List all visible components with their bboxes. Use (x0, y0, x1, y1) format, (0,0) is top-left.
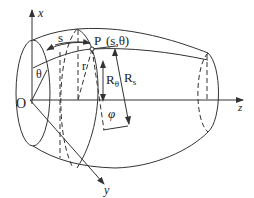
constructions (32, 30, 128, 158)
r-theta-arrow-up (100, 60, 106, 68)
shell-body (16, 28, 219, 168)
s-label: s (58, 30, 63, 45)
point-p-label: P (94, 33, 101, 48)
x-axis-label: x (37, 6, 44, 20)
right-end-ellipse-back (198, 53, 208, 132)
r-theta-label: Rθ (106, 72, 119, 89)
y-axis-label: y (103, 183, 110, 197)
r-label: r (82, 59, 86, 73)
middle-ellipse-back (61, 29, 77, 166)
r-s-arrow-up (112, 48, 118, 56)
r-s-arrow-down (125, 116, 131, 125)
radius-r-dashed (78, 49, 92, 100)
right-end-ellipse-front (208, 53, 219, 132)
bottom-profile-curve (33, 132, 208, 168)
origin-label: O (16, 96, 26, 111)
normal-line-dashed (92, 49, 104, 130)
point-coords-label: (s,θ) (106, 33, 129, 48)
diagram-svg: x z y O s θ P (s,θ) r Rθ Rs φ (0, 0, 254, 198)
r-s-label: Rs (124, 70, 137, 87)
normal-end-tick (103, 126, 128, 130)
theta-label: θ (36, 67, 42, 81)
phi-label: φ (108, 106, 115, 121)
z-axis-label: z (237, 101, 243, 113)
r-theta-arrow-down (100, 94, 106, 102)
left-end-ellipse (16, 40, 50, 146)
meridian-through-p (33, 49, 208, 68)
y-axis (30, 100, 104, 184)
shell-coordinate-diagram: x z y O s θ P (s,θ) r Rθ Rs φ (0, 0, 254, 198)
